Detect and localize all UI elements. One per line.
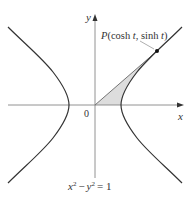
sector-ray xyxy=(95,51,157,105)
y-axis-arrow-icon xyxy=(93,14,98,21)
x-axis-arrow-icon xyxy=(177,103,184,108)
equation-label: x2−y2= 1 xyxy=(67,180,111,192)
y-axis-label: y xyxy=(85,11,91,23)
point-p-marker xyxy=(155,49,159,53)
point-p-pointer xyxy=(140,41,154,49)
hyperbola-diagram: y x 0 P(cosh t, sinh t) x2−y2= 1 xyxy=(0,0,194,200)
x-axis-label: x xyxy=(177,110,183,122)
point-p-label: P(cosh t, sinh t) xyxy=(100,30,168,42)
origin-label: 0 xyxy=(84,108,89,119)
